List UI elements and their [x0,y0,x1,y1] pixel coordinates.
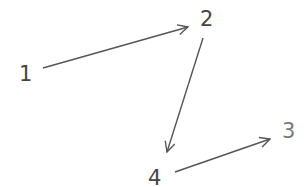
node-2-label: 2 [200,7,213,31]
node-3-label: 3 [282,119,295,143]
edge-4-to-3 [175,139,270,172]
edge-1-to-2 [43,27,188,68]
graph-canvas: 1 2 3 4 [0,0,305,187]
node-4-label: 4 [148,166,161,187]
edge-2-to-4 [167,38,203,152]
node-1-label: 1 [19,62,32,86]
